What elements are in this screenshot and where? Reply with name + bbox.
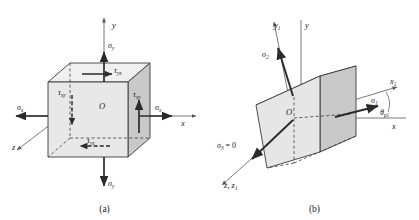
sigma-2-label: σ2 [262, 50, 269, 60]
sigma-1-label: σ1 [371, 96, 378, 106]
axis-label-y: y [111, 20, 116, 30]
rot-cube-right-face [320, 66, 356, 152]
axis-label-y-b: y [304, 20, 309, 30]
stress-element-figure: y x z O σy σy σx σx τyx τyx τxy τxy (a) [0, 0, 419, 220]
origin-label-b: O [286, 107, 292, 117]
rotated-stress-cube [256, 66, 356, 168]
sigma-x-right-label: σx [155, 103, 162, 113]
axis-label-x: x [180, 118, 185, 128]
sigma-y-bottom-label: σy [108, 179, 115, 189]
panel-b-drawing: y y1 x x1 z, z1 O σ1 σ2 σ3 = 0 θp1 [210, 0, 419, 220]
axis-label-x1: x1 [389, 76, 397, 87]
panel-a-drawing: y x z O σy σy σx σx τyx τyx τxy τxy [0, 0, 209, 220]
panel-a-caption: (a) [0, 204, 209, 214]
rot-cube-front-face [256, 76, 320, 168]
panel-b: y y1 x x1 z, z1 O σ1 σ2 σ3 = 0 θp1 (b) [210, 0, 419, 220]
axis-label-z: z [11, 142, 16, 152]
theta-arc [386, 92, 390, 112]
sigma-y-top-label: σy [108, 41, 115, 51]
sigma-2-arrow [278, 48, 293, 96]
axis-label-y1: y1 [273, 20, 281, 31]
panel-a: y x z O σy σy σx σx τyx τyx τxy τxy (a) [0, 0, 209, 220]
axis-label-x-b: x [391, 121, 396, 131]
sigma-3-label: σ3 = 0 [217, 141, 236, 151]
sigma-x-left-label: σx [17, 103, 24, 113]
theta-p1-label: θp1 [380, 108, 390, 118]
panel-b-caption: (b) [210, 204, 419, 214]
axis-label-z-z1: z, z1 [223, 180, 238, 191]
origin-label-a: O [99, 101, 105, 111]
